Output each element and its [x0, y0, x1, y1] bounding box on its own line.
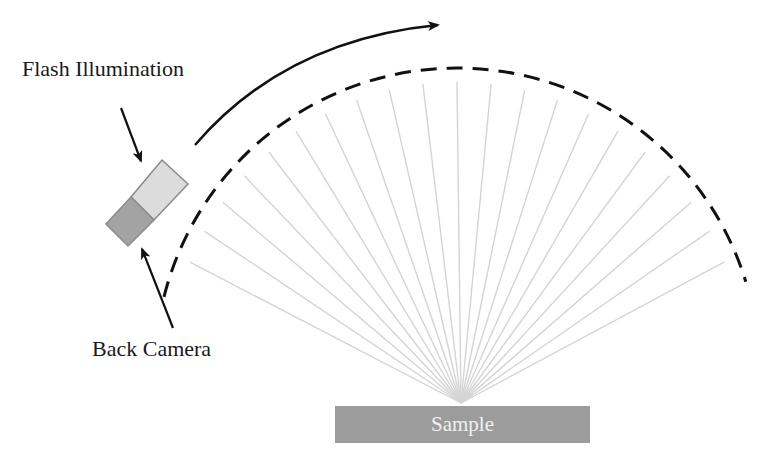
reflection-ray — [244, 176, 461, 403]
reflection-ray — [461, 131, 618, 403]
reflection-rays — [190, 82, 724, 403]
reflection-ray — [457, 82, 461, 403]
reflection-ray — [461, 262, 724, 403]
camera-pointer-arrow — [142, 249, 173, 328]
sample-block: Sample — [335, 406, 590, 443]
flash-pointer-arrow — [121, 108, 141, 161]
reflection-ray — [205, 231, 461, 403]
reflection-ray — [461, 176, 670, 403]
reflection-ray — [461, 152, 645, 403]
reflection-ray — [423, 84, 461, 403]
diagram-canvas: Flash Illumination Back Camera Sample — [0, 0, 765, 459]
back-camera-label: Back Camera — [92, 338, 211, 360]
flash-illumination-label: Flash Illumination — [22, 58, 184, 80]
reflection-ray — [325, 114, 461, 403]
motion-arrow-arc — [195, 25, 438, 145]
sample-label: Sample — [431, 414, 494, 435]
reflection-ray — [296, 131, 461, 403]
phone-device — [106, 160, 188, 246]
reflection-ray — [223, 202, 461, 403]
